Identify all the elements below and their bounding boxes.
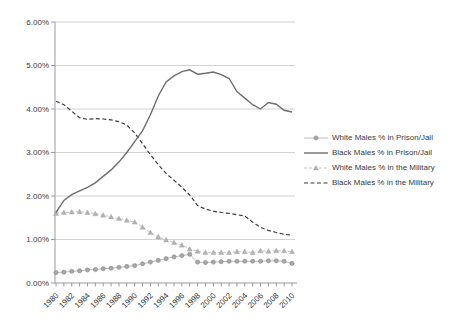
x-tick-label: 1990	[120, 291, 139, 310]
series-marker-circle	[125, 264, 129, 268]
legend-line-sample	[304, 148, 328, 158]
x-tick-label: 2010	[277, 291, 296, 310]
series-marker-triangle	[109, 214, 114, 219]
series-marker-circle	[78, 269, 82, 273]
x-tick-label: 2002	[215, 291, 234, 310]
series-line	[56, 212, 292, 253]
series-marker-circle	[62, 270, 66, 274]
legend-item: White Males % in Prison/Jail	[304, 133, 435, 143]
series-marker-triangle	[187, 246, 192, 251]
series-marker-circle	[70, 269, 74, 273]
x-tick-label: 1980	[41, 291, 60, 310]
series-marker-circle	[133, 264, 137, 268]
series-line	[56, 101, 292, 235]
x-tick-label: 1982	[57, 291, 76, 310]
series-marker-triangle	[85, 210, 90, 215]
series-marker-circle	[164, 257, 168, 261]
series-marker-circle	[148, 260, 152, 264]
series-marker-circle	[251, 259, 255, 263]
series-marker-circle	[290, 261, 294, 265]
series-marker-triangle	[140, 225, 145, 230]
series-marker-circle	[196, 260, 200, 264]
series-marker-circle	[235, 259, 239, 263]
legend-marker-circle-icon	[314, 136, 318, 140]
series-marker-circle	[117, 265, 121, 269]
series-marker-circle	[140, 262, 144, 266]
series-marker-circle	[109, 266, 113, 270]
series-marker-circle	[274, 259, 278, 263]
series-marker-circle	[243, 259, 247, 263]
x-tick-label: 2004	[230, 291, 249, 310]
series-marker-triangle	[282, 248, 287, 253]
series-marker-circle	[85, 268, 89, 272]
x-tick-label: 1994	[152, 291, 171, 310]
legend-item: Black Males % in the Military	[304, 178, 435, 188]
series-marker-circle	[180, 253, 184, 257]
chart-canvas: 0.00%1.00%2.00%3.00%4.00%5.00%6.00%19801…	[0, 0, 458, 326]
x-tick-label: 1984	[73, 291, 92, 310]
series-marker-triangle	[258, 248, 263, 253]
legend-item: White Males % in the Military	[304, 163, 435, 173]
series-marker-triangle	[124, 218, 129, 223]
series-marker-circle	[188, 252, 192, 256]
x-tick-label: 2008	[262, 291, 281, 310]
x-tick-label: 1988	[104, 291, 123, 310]
x-tick-label: 1996	[167, 291, 186, 310]
x-tick-label: 1992	[136, 291, 155, 310]
series-marker-circle	[172, 255, 176, 259]
legend-line-sample	[304, 178, 328, 188]
series-marker-circle	[282, 259, 286, 263]
series-marker-circle	[93, 267, 97, 271]
series-marker-circle	[219, 260, 223, 264]
y-tick-label: 5.00%	[26, 61, 49, 70]
series-marker-circle	[156, 258, 160, 262]
legend-line-sample	[304, 163, 328, 173]
y-tick-label: 2.00%	[26, 192, 49, 201]
series-marker-circle	[101, 267, 105, 271]
series-marker-circle	[54, 270, 58, 274]
series-line	[56, 70, 292, 213]
legend-label: White Males % in Prison/Jail	[332, 133, 433, 143]
x-tick-label: 2000	[199, 291, 218, 310]
x-tick-label: 2006	[246, 291, 265, 310]
legend-label: Black Males % in the Military	[332, 178, 434, 188]
y-tick-label: 4.00%	[26, 105, 49, 114]
series-marker-triangle	[61, 210, 66, 215]
x-tick-label: 1986	[89, 291, 108, 310]
series-marker-triangle	[148, 230, 153, 235]
y-tick-label: 6.00%	[26, 18, 49, 27]
y-tick-label: 0.00%	[26, 279, 49, 288]
series-marker-circle	[258, 259, 262, 263]
series-marker-triangle	[156, 234, 161, 239]
legend-label: White Males % in the Military	[332, 163, 435, 173]
series-marker-circle	[266, 259, 270, 263]
series-marker-circle	[203, 260, 207, 264]
series-marker-circle	[211, 260, 215, 264]
y-tick-label: 3.00%	[26, 148, 49, 157]
x-tick-label: 1998	[183, 291, 202, 310]
legend-label: Black Males % in Prison/Jail	[332, 148, 432, 158]
y-tick-label: 1.00%	[26, 235, 49, 244]
legend: White Males % in Prison/JailBlack Males …	[304, 133, 435, 188]
legend-item: Black Males % in Prison/Jail	[304, 148, 435, 158]
legend-line-sample	[304, 133, 328, 143]
series-marker-circle	[227, 259, 231, 263]
